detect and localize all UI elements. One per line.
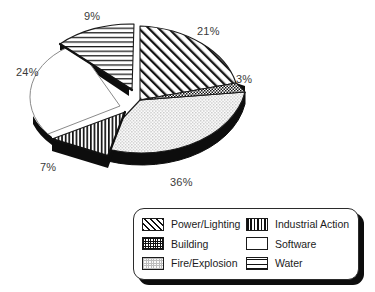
data-label-software: 24% <box>16 66 39 78</box>
legend-swatch-fire-explosion <box>142 257 164 270</box>
data-label-industrial-action: 7% <box>40 161 56 173</box>
legend-label-power-lighting: Power/Lighting <box>171 219 240 230</box>
chart-legend: Power/Lighting Industrial Action Buildin… <box>133 208 359 280</box>
pie-chart-figure: 9% 21% 3% 36% 7% 24% Power/Lighting Indu… <box>0 0 375 292</box>
data-label-building: 3% <box>236 73 252 85</box>
legend-swatch-software <box>246 237 268 250</box>
legend-item-power-lighting[interactable]: Power/Lighting <box>142 218 246 231</box>
data-label-water: 9% <box>84 10 100 22</box>
legend-item-software[interactable]: Software <box>246 237 350 250</box>
legend-label-software: Software <box>275 239 316 250</box>
legend-swatch-building <box>142 237 164 250</box>
legend-label-fire-explosion: Fire/Explosion <box>171 258 238 269</box>
legend-label-industrial-action: Industrial Action <box>275 219 349 230</box>
legend-swatch-water <box>246 257 268 270</box>
legend-item-water[interactable]: Water <box>246 257 350 270</box>
legend-item-industrial-action[interactable]: Industrial Action <box>246 218 350 231</box>
legend-label-water: Water <box>275 258 303 269</box>
legend-swatch-industrial-action <box>246 218 268 231</box>
legend-item-fire-explosion[interactable]: Fire/Explosion <box>142 257 246 270</box>
data-label-power-lighting: 21% <box>197 25 220 37</box>
legend-label-building: Building <box>171 239 208 250</box>
legend-item-building[interactable]: Building <box>142 237 246 250</box>
legend-swatch-power-lighting <box>142 218 164 231</box>
data-label-fire-explosion: 36% <box>170 176 193 188</box>
